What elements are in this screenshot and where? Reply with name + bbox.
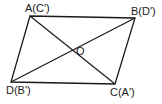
vertex-label-c: C(A') bbox=[110, 86, 135, 98]
center-label-o: O bbox=[76, 45, 85, 57]
vertex-label-a: A(C') bbox=[25, 2, 50, 14]
vertex-label-b: B(D') bbox=[131, 5, 156, 17]
vertex-label-d: D(B') bbox=[6, 84, 31, 96]
diagonal-bd bbox=[11, 18, 135, 82]
parallelogram-diagram: A(C') B(D') C(A') D(B') O bbox=[0, 0, 162, 104]
